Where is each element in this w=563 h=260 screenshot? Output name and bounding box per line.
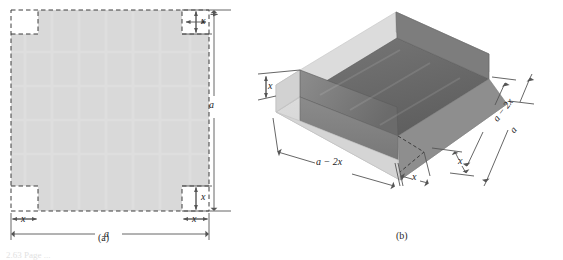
label-x-height: x <box>268 81 272 91</box>
label-x-bottom-left: x <box>21 214 25 224</box>
label-x-bottom-right: x <box>201 192 205 202</box>
caption-b: (b) <box>396 230 408 241</box>
label-x-front-small: x <box>412 172 416 182</box>
label-a-minus-2x-front: a − 2x <box>316 157 342 167</box>
label-x-bottom-right-h: x <box>192 214 196 224</box>
footnote-fragment: 2.63 Page ... <box>6 250 51 260</box>
sheet-shape <box>11 10 209 211</box>
caption-a: (a) <box>98 232 109 243</box>
label-x-top-right: x <box>201 16 205 26</box>
label-a-side: a <box>209 100 214 110</box>
label-x-right-small: x <box>458 156 462 166</box>
